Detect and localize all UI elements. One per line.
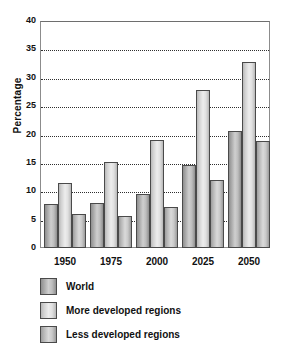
y-tick-label: 25 — [2, 101, 36, 110]
y-tick-label: 35 — [2, 44, 36, 53]
x-category-label: 1975 — [86, 256, 136, 267]
x-category-label: 2025 — [178, 256, 228, 267]
bar-group — [228, 21, 270, 248]
legend-label: More developed regions — [66, 305, 181, 316]
bar — [182, 165, 196, 248]
bar — [118, 216, 132, 248]
legend-swatch-icon — [40, 278, 57, 295]
bar — [150, 140, 164, 248]
y-tick-label: 10 — [2, 186, 36, 195]
chart-legend: WorldMore developed regionsLess develope… — [40, 274, 270, 346]
x-axis-category-labels: 19501975200020252050 — [40, 256, 270, 272]
bar-group — [44, 21, 86, 248]
y-tick-label: 30 — [2, 73, 36, 82]
bar-group — [90, 21, 132, 248]
bar — [210, 180, 224, 248]
y-tick-label: 40 — [2, 16, 36, 25]
bar — [104, 162, 118, 248]
bar — [242, 62, 256, 248]
legend-label: Less developed regions — [66, 329, 180, 340]
legend-item: Less developed regions — [40, 322, 270, 346]
x-category-label: 2000 — [132, 256, 182, 267]
legend-label: World — [66, 281, 94, 292]
x-category-label: 2050 — [224, 256, 274, 267]
legend-item: World — [40, 274, 270, 298]
y-tick-label: 0 — [2, 243, 36, 252]
bar — [196, 90, 210, 248]
bar — [164, 207, 178, 248]
bar — [58, 183, 72, 248]
bar — [256, 141, 270, 248]
bar-group — [182, 21, 224, 248]
bar — [228, 131, 242, 248]
bar-chart-figure: Percentage 4035302520151050 195019752000… — [0, 0, 287, 352]
x-category-label: 1950 — [40, 256, 90, 267]
legend-item: More developed regions — [40, 298, 270, 322]
bar — [44, 204, 58, 248]
bar-groups — [40, 21, 270, 248]
y-tick-label: 20 — [2, 130, 36, 139]
y-tick-label: 15 — [2, 158, 36, 167]
bar — [72, 214, 86, 248]
legend-swatch-icon — [40, 302, 57, 319]
y-axis-tick-labels: 4035302520151050 — [0, 0, 36, 352]
bar-group — [136, 21, 178, 248]
y-tick-label: 5 — [2, 215, 36, 224]
bar — [136, 194, 150, 248]
legend-swatch-icon — [40, 326, 57, 343]
bar — [90, 203, 104, 248]
